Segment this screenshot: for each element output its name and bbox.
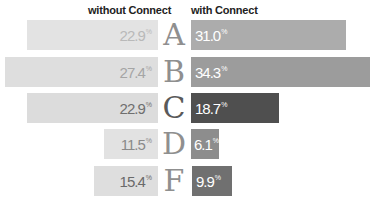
grade-letter-b: B bbox=[161, 57, 187, 87]
percent-sign: % bbox=[215, 174, 221, 181]
percent-sign: % bbox=[146, 65, 152, 72]
bar-without-connect-f: 15.4% bbox=[94, 166, 158, 196]
bar-without-connect-a: 22.9% bbox=[27, 20, 158, 50]
percent-sign: % bbox=[221, 101, 227, 108]
value-label: 18.7 bbox=[195, 100, 220, 117]
value-label: 11.5 bbox=[121, 136, 145, 153]
grade-letter-d: D bbox=[161, 129, 187, 159]
percent-sign: % bbox=[146, 28, 152, 35]
bar-with-connect-a: 31.0% bbox=[191, 20, 346, 50]
grade-letter-f: F bbox=[161, 166, 187, 196]
bar-with-connect-f: 9.9% bbox=[192, 166, 232, 196]
bar-without-connect-b: 27.4% bbox=[5, 57, 158, 87]
value-label: 9.9 bbox=[196, 173, 214, 190]
percent-sign: % bbox=[221, 28, 227, 35]
bar-with-connect-c: 18.7% bbox=[191, 93, 279, 123]
percent-sign: % bbox=[221, 65, 227, 72]
percent-sign: % bbox=[213, 137, 219, 144]
bar-without-connect-c: 22.9% bbox=[27, 93, 158, 123]
header-without-connect: without Connect bbox=[88, 4, 171, 16]
bar-with-connect-d: 6.1% bbox=[191, 129, 219, 159]
value-label: 15.4 bbox=[120, 173, 145, 190]
percent-sign: % bbox=[146, 101, 152, 108]
grade-letter-a: A bbox=[161, 20, 187, 50]
value-label: 22.9 bbox=[120, 100, 145, 117]
value-label: 6.1 bbox=[194, 136, 212, 153]
percent-sign: % bbox=[146, 174, 152, 181]
value-label: 31.0 bbox=[195, 27, 220, 44]
value-label: 27.4 bbox=[120, 64, 145, 81]
value-label: 22.9 bbox=[120, 27, 145, 44]
value-label: 34.3 bbox=[195, 64, 220, 81]
percent-sign: % bbox=[146, 137, 152, 144]
grade-letter-c: C bbox=[161, 93, 187, 123]
bar-without-connect-d: 11.5% bbox=[104, 129, 158, 159]
header-with-connect: with Connect bbox=[191, 4, 258, 16]
bar-with-connect-b: 34.3% bbox=[191, 57, 370, 87]
